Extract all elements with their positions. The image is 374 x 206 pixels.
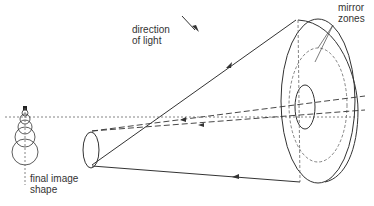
ray-dashed-upper xyxy=(92,96,365,131)
image-cylinder-end xyxy=(83,132,99,168)
direction-label: direction of light xyxy=(132,24,170,46)
mirror-zones-label: mirror zones xyxy=(338,2,365,24)
direction-arrow-icon xyxy=(182,16,199,32)
mirror-vertical-axis xyxy=(298,20,300,182)
mirror-zone-leader xyxy=(315,25,333,62)
final-image-label: final image shape xyxy=(30,173,78,195)
ray-top xyxy=(92,20,296,165)
ray-bottom xyxy=(92,166,300,182)
mirror-outer-ellipse xyxy=(281,19,355,183)
mirror-inner-ellipse xyxy=(295,85,315,129)
